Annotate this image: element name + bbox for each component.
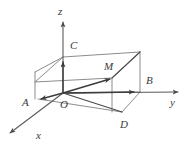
edge-bottom-right (122, 92, 140, 112)
figure-labels: z y x C M B A O D (21, 5, 175, 141)
point-label-o: O (60, 98, 68, 110)
x-axis (10, 93, 63, 133)
point-label-a: A (21, 96, 29, 108)
edge-top-back (63, 52, 140, 57)
z-axis-label: z (57, 5, 63, 17)
point-label-b: B (146, 74, 153, 86)
x-axis-label: x (35, 129, 41, 141)
figure-container: z y x C M B A O D (0, 0, 188, 149)
vector-ob (63, 92, 134, 93)
vector-om (63, 79, 110, 93)
point-label-d: D (119, 118, 128, 130)
point-label-c: C (70, 39, 78, 51)
geometry-figure-svg: z y x C M B A O D (0, 0, 188, 149)
point-label-m: M (103, 60, 114, 72)
segment-m-to-topright (112, 52, 140, 78)
segment-od (63, 93, 122, 112)
y-axis-label: y (169, 96, 175, 108)
box-front-edges (38, 52, 140, 112)
edge-bottom-front (38, 99, 122, 112)
